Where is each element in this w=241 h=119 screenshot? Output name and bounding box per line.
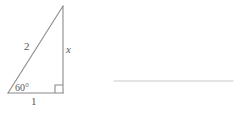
base-length-label: 1 [31,96,37,107]
angle-measure-label: 60° [15,83,29,93]
hypotenuse-length-label: 2 [24,41,30,52]
triangle-hypotenuse-line [8,6,63,93]
vertical-leg-length-label: x [66,44,71,55]
right-angle-marker-icon [55,85,63,93]
triangle-shape [8,6,63,93]
